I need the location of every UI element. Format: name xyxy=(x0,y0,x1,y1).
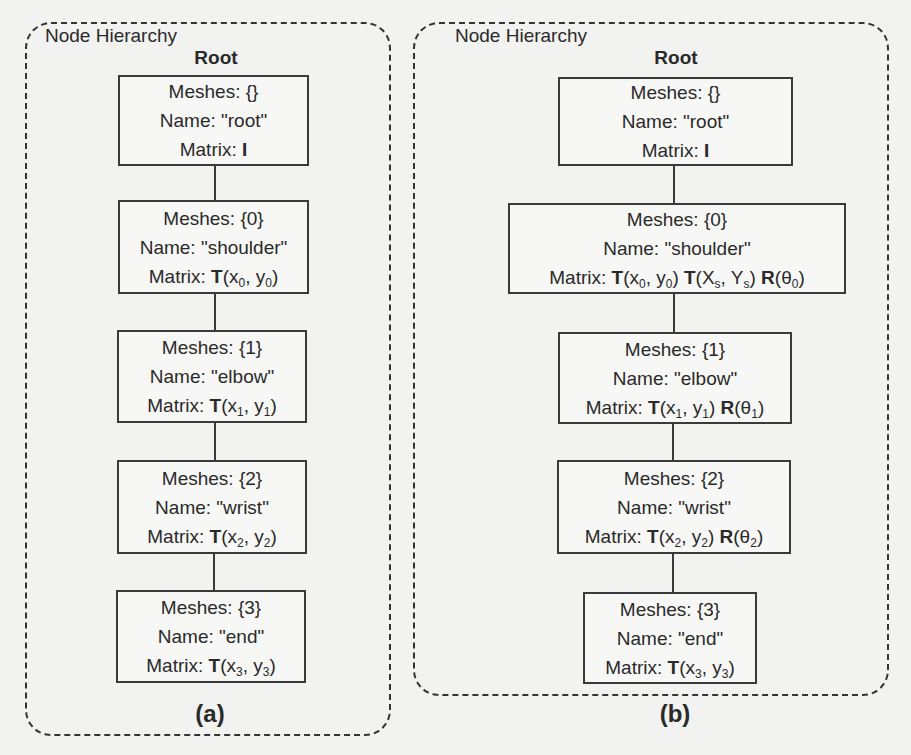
panel-a-node-wrist: Meshes: {2} Name: "wrist" Matrix: T(x2, … xyxy=(117,460,307,554)
panel-a-node-shoulder: Meshes: {0} Name: "shoulder" Matrix: T(x… xyxy=(118,200,309,294)
node-name: Name: "wrist" xyxy=(155,493,269,522)
node-name: Name: "elbow" xyxy=(613,364,737,393)
node-name: Name: "end" xyxy=(158,622,264,651)
node-meshes: Meshes: {3} xyxy=(620,595,720,624)
node-matrix: Matrix: I xyxy=(180,135,248,164)
panel-a-root-label: Root xyxy=(194,47,237,69)
panel-b-root-label: Root xyxy=(654,47,697,69)
panel-b-caption: (b) xyxy=(660,700,691,728)
panel-a-connector-3-4 xyxy=(213,553,215,591)
panel-a-connector-1-2 xyxy=(214,293,216,331)
panel-a-caption: (a) xyxy=(195,700,224,728)
node-matrix: Matrix: T(x3, y3) xyxy=(605,653,734,682)
node-matrix: Matrix: T(x3, y3) xyxy=(146,651,275,680)
node-matrix: Matrix: T(x2, y2) R(θ2) xyxy=(585,522,763,551)
node-matrix: Matrix: I xyxy=(642,136,710,165)
node-matrix: Matrix: T(x1, y1) xyxy=(147,391,276,420)
node-matrix: Matrix: T(x0, y0) T(Xs, Ys) R(θ0) xyxy=(549,263,805,292)
node-meshes: Meshes: {1} xyxy=(162,333,262,362)
panel-b-connector-2-3 xyxy=(672,423,674,461)
node-meshes: Meshes: {1} xyxy=(625,335,725,364)
node-meshes: Meshes: {2} xyxy=(162,464,262,493)
panel-a-node-end: Meshes: {3} Name: "end" Matrix: T(x3, y3… xyxy=(116,590,306,683)
node-meshes: Meshes: {} xyxy=(169,77,259,106)
panel-a-connector-2-3 xyxy=(214,422,216,461)
panel-a-node-elbow: Meshes: {1} Name: "elbow" Matrix: T(x1, … xyxy=(117,330,307,423)
panel-b-node-shoulder: Meshes: {0} Name: "shoulder" Matrix: T(x… xyxy=(508,203,846,294)
node-meshes: Meshes: {0} xyxy=(627,205,727,234)
panel-b-node-elbow: Meshes: {1} Name: "elbow" Matrix: T(x1, … xyxy=(558,332,792,424)
node-name: Name: "wrist" xyxy=(617,493,731,522)
panel-b-connector-3-4 xyxy=(672,553,674,593)
panel-b-node-root: Meshes: {} Name: "root" Matrix: I xyxy=(558,77,793,166)
node-meshes: Meshes: {} xyxy=(631,78,721,107)
panel-b-connector-1-2 xyxy=(673,293,675,333)
panel-a-connector-0-1 xyxy=(214,165,216,201)
node-matrix: Matrix: T(x1, y1) R(θ1) xyxy=(586,393,764,422)
node-meshes: Meshes: {3} xyxy=(161,593,261,622)
node-matrix: Matrix: T(x0, y0) xyxy=(149,262,278,291)
panel-a-title: Node Hierarchy xyxy=(45,25,177,47)
node-name: Name: "end" xyxy=(617,624,723,653)
node-name: Name: "elbow" xyxy=(150,362,274,391)
panel-b-node-end: Meshes: {3} Name: "end" Matrix: T(x3, y3… xyxy=(583,592,757,684)
node-matrix: Matrix: T(x2, y2) xyxy=(147,522,276,551)
node-meshes: Meshes: {0} xyxy=(163,204,263,233)
panel-b-node-wrist: Meshes: {2} Name: "wrist" Matrix: T(x2, … xyxy=(557,460,791,554)
node-name: Name: "shoulder" xyxy=(140,233,288,262)
node-name: Name: "root" xyxy=(160,106,267,135)
node-name: Name: "shoulder" xyxy=(603,234,751,263)
panel-a-node-root: Meshes: {} Name: "root" Matrix: I xyxy=(118,75,309,166)
node-meshes: Meshes: {2} xyxy=(624,464,724,493)
node-name: Name: "root" xyxy=(622,107,729,136)
panel-b-title: Node Hierarchy xyxy=(455,25,587,47)
panel-b-connector-0-1 xyxy=(673,165,675,204)
